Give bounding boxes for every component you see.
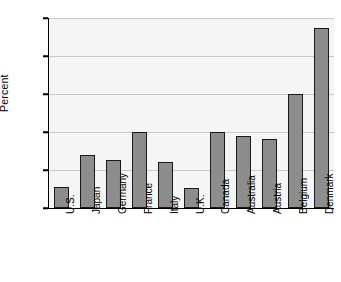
x-tick-label: Japan: [91, 187, 102, 214]
x-tick-label: Austria: [272, 183, 283, 214]
bar-chart: Percent 050100150200250 U.S.JapanGermany…: [0, 0, 341, 282]
y-axis-title: Percent: [0, 74, 10, 112]
x-tick-label: France: [143, 183, 154, 214]
x-tick-label: Australia: [246, 175, 257, 214]
gridline: [49, 56, 334, 57]
x-tick-label: U.S.: [65, 195, 76, 214]
x-tick-label: Germany: [117, 173, 128, 214]
x-tick-label: Canada: [220, 179, 231, 214]
plot-area: [48, 18, 334, 209]
x-tick-label: Denmark: [324, 173, 335, 214]
x-tick-label: Italy: [169, 196, 180, 214]
gridline: [49, 18, 334, 19]
x-tick-label: U.K.: [195, 195, 206, 214]
x-tick-label: Belgium: [298, 178, 309, 214]
